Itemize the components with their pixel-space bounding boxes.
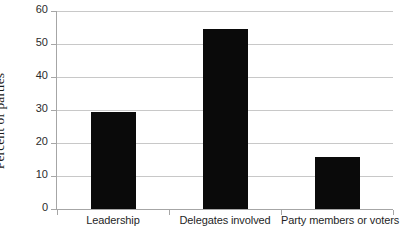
x-tick-2 bbox=[281, 210, 282, 215]
y-tick-50 bbox=[51, 44, 57, 45]
y-tick-10 bbox=[51, 176, 57, 177]
x-tick-1 bbox=[169, 210, 170, 215]
y-tick-label-0: 0 bbox=[0, 201, 48, 213]
bar-2 bbox=[315, 157, 360, 209]
y-tick-30 bbox=[51, 110, 57, 111]
gridline-60 bbox=[57, 11, 393, 12]
bar-1 bbox=[203, 29, 248, 210]
x-axis-label-2: Party members or voters bbox=[281, 214, 393, 226]
x-tick-3 bbox=[393, 210, 394, 215]
y-tick-label-10: 10 bbox=[0, 168, 48, 180]
y-tick-40 bbox=[51, 77, 57, 78]
x-tick-0 bbox=[57, 210, 58, 215]
y-tick-label-40: 40 bbox=[0, 69, 48, 81]
y-tick-label-50: 50 bbox=[0, 36, 48, 48]
x-axis-label-1: Delegates involved bbox=[169, 214, 281, 226]
bar-chart: Percent of parties 0102030405060Leadersh… bbox=[0, 0, 404, 242]
y-tick-label-30: 30 bbox=[0, 102, 48, 114]
x-axis-label-0: Leadership bbox=[57, 214, 169, 226]
bar-0 bbox=[91, 112, 136, 209]
gridline-0 bbox=[57, 209, 393, 210]
y-tick-label-20: 20 bbox=[0, 135, 48, 147]
plot-area bbox=[57, 11, 393, 209]
y-tick-20 bbox=[51, 143, 57, 144]
y-tick-60 bbox=[51, 11, 57, 12]
y-tick-label-60: 60 bbox=[0, 3, 48, 15]
